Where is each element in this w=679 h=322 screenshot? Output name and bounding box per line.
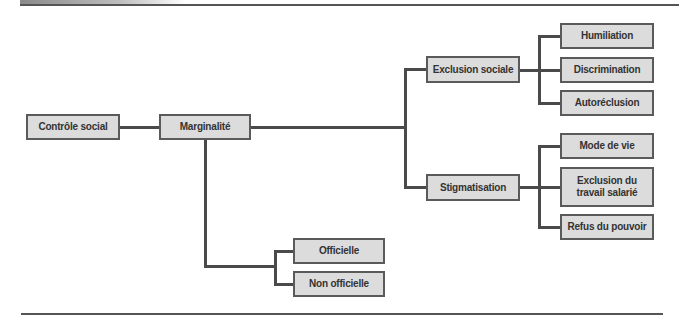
node-non-officielle: Non officielle xyxy=(293,271,385,297)
node-humiliation: Humiliation xyxy=(560,23,654,49)
node-marginalite: Marginalité xyxy=(159,114,251,140)
connector-to-discrimination xyxy=(538,69,560,72)
node-autoreclusion: Autoréclusion xyxy=(560,90,654,116)
connector-to-non-officielle xyxy=(274,283,293,286)
connector-marginalite-branch xyxy=(251,126,407,129)
connector-to-autoreclusion xyxy=(538,102,560,105)
node-refus-du-pouvoir: Refus du pouvoir xyxy=(560,214,654,240)
node-stigmatisation: Stigmatisation xyxy=(426,174,520,201)
node-controle-social: Contrôle social xyxy=(26,114,120,140)
node-mode-de-vie: Mode de vie xyxy=(560,133,654,159)
connector-types-vertical xyxy=(274,250,277,285)
connector-to-exclusion-travail xyxy=(538,186,560,189)
connector-to-mode-de-vie xyxy=(538,145,560,148)
connector-to-exclusion xyxy=(404,68,426,71)
connector-to-types xyxy=(204,265,277,268)
node-discrimination: Discrimination xyxy=(560,57,654,83)
top-rule xyxy=(20,4,679,6)
connector-to-refus-pouvoir xyxy=(538,226,560,229)
node-exclusion-sociale: Exclusion sociale xyxy=(426,56,520,83)
connector-stigmatisation-out xyxy=(520,186,540,189)
connector-to-humiliation xyxy=(538,35,560,38)
connector-marginalite-down xyxy=(204,139,207,268)
node-officielle: Officielle xyxy=(293,238,385,264)
connector-to-stigmatisation xyxy=(404,186,426,189)
bottom-rule xyxy=(21,313,663,315)
node-exclusion-travail-salarie: Exclusion du travail salarié xyxy=(560,167,654,207)
connector-branch-vertical xyxy=(404,68,407,188)
connector-to-officielle xyxy=(274,250,293,253)
connector-root-marginalite xyxy=(120,126,160,129)
connector-exclusion-out xyxy=(520,69,540,72)
